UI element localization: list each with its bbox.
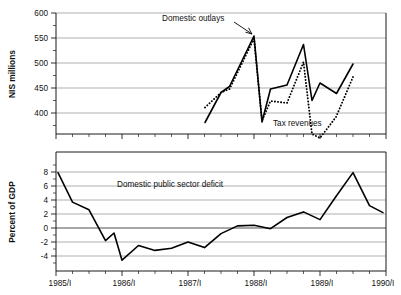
bottom-ytick-6: 6 [43, 182, 48, 191]
bottom-xtick-1990: 1990/I [372, 279, 395, 288]
annotation-domestic-outlays: Domestic outlays [162, 14, 224, 23]
bottom-xtick-1988: 1988/I [245, 279, 268, 288]
annotation-deficit: Domestic public sector deficit [117, 180, 224, 189]
bottom-ytick-0: 0 [43, 224, 48, 233]
bottom-xtick-1986: 1986/I [113, 279, 136, 288]
top-ytick-500: 500 [34, 59, 48, 68]
bottom-xtick-1985: 1985/I [49, 279, 72, 288]
bottom-x-ticks [56, 271, 386, 276]
chart-figure: 600 550 500 450 400 NIS millions [0, 0, 401, 295]
bottom-ytick-m2: -2 [41, 238, 49, 247]
annotation-arrow-outlays [234, 22, 252, 34]
top-x-ticks [56, 134, 386, 139]
annotation-arrowhead-outlays [246, 28, 253, 34]
bottom-xtick-1987: 1987/I [179, 279, 202, 288]
top-gridlines [56, 13, 386, 113]
top-ytick-600: 600 [34, 9, 48, 18]
top-y-axis-title: NIS millions [7, 50, 17, 98]
series-domestic-outlays [205, 36, 353, 123]
top-y-ticks-major [51, 13, 56, 113]
annotation-tax-revenues: Tax revenues [273, 119, 322, 128]
bottom-panel: 8 6 4 2 0 -2 -4 Percent of GDP [7, 152, 394, 288]
top-ytick-550: 550 [34, 34, 48, 43]
bottom-ytick-2: 2 [43, 210, 48, 219]
bottom-y-ticks-major [51, 172, 56, 256]
top-ytick-450: 450 [34, 84, 48, 93]
bottom-xtick-1989: 1989/I [311, 279, 334, 288]
bottom-ytick-4: 4 [43, 196, 48, 205]
top-panel: 600 550 500 450 400 NIS millions [7, 9, 386, 139]
bottom-y-axis-title: Percent of GDP [7, 181, 17, 243]
chart-canvas: 600 550 500 450 400 NIS millions [0, 0, 401, 295]
bottom-ytick-m4: -4 [41, 252, 49, 261]
bottom-ytick-8: 8 [43, 168, 48, 177]
top-ytick-400: 400 [34, 109, 48, 118]
